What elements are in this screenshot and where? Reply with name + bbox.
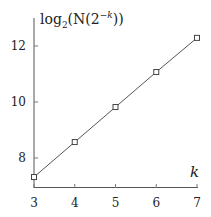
x-tick-label: 4 bbox=[71, 196, 79, 210]
line-chart: 34567 81012 log2(N(2−k)) k bbox=[0, 0, 211, 217]
square-marker bbox=[154, 70, 159, 75]
y-tick-label: 12 bbox=[11, 39, 26, 53]
x-tick-label: 6 bbox=[152, 196, 160, 210]
square-marker bbox=[113, 105, 118, 110]
square-marker bbox=[32, 175, 37, 180]
x-tick-label: 7 bbox=[193, 196, 201, 210]
y-tick-label: 10 bbox=[11, 95, 26, 109]
square-marker bbox=[72, 140, 77, 145]
square-marker bbox=[195, 35, 200, 40]
y-tick-label: 8 bbox=[18, 151, 26, 165]
x-tick-label: 3 bbox=[30, 196, 38, 210]
x-axis-title: k bbox=[190, 163, 199, 181]
x-tick-label: 5 bbox=[112, 196, 120, 210]
y-axis-title: log2(N(2−k)) bbox=[40, 10, 124, 30]
